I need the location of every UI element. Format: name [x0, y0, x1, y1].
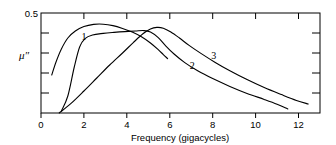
line-chart-plot: 1 2 3 0.5 0 2 4 6 8 10 12 Frequency (gig… [0, 0, 336, 145]
chart-figure: 1 2 3 0.5 0 2 4 6 8 10 12 Frequency (gig… [0, 0, 336, 145]
data-curve-3 [59, 27, 308, 113]
data-curve-2 [61, 31, 287, 111]
y-axis-ticks [41, 33, 49, 93]
x-tick-label-4: 4 [124, 119, 129, 130]
x-tick-label-6: 6 [167, 119, 172, 130]
curve-label-2: 2 [190, 60, 195, 71]
right-axis-ticks [312, 33, 320, 93]
x-tick-label-10: 10 [250, 119, 261, 130]
curve-label-3: 3 [211, 50, 216, 61]
x-axis-title: Frequency (gigacycles) [131, 132, 229, 143]
plot-frame [41, 13, 320, 113]
x-tick-label-0: 0 [38, 119, 43, 130]
x-axis-ticks [41, 113, 299, 118]
y-axis-title: μ″ [18, 49, 30, 61]
x-tick-label-8: 8 [210, 119, 215, 130]
y-tick-label-max: 0.5 [25, 8, 38, 19]
top-axis-ticks [84, 13, 299, 19]
curve-label-1: 1 [81, 31, 86, 42]
x-tick-label-2: 2 [81, 119, 86, 130]
x-tick-label-12: 12 [293, 119, 304, 130]
